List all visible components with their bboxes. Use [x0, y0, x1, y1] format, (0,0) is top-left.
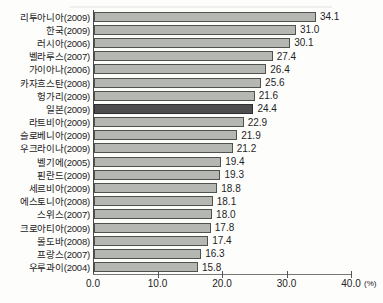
bar [94, 209, 212, 219]
country-label: 프랑스(2007) [0, 247, 93, 261]
x-axis: (%) 0.010.020.030.040.0 [93, 274, 351, 295]
bar [94, 223, 211, 233]
bar [94, 64, 266, 74]
x-axis-tick-label: 0.0 [86, 278, 100, 289]
value-label: 25.6 [265, 77, 284, 88]
bar-track: 18.0 [93, 208, 352, 221]
value-label: 21.2 [237, 143, 256, 154]
bar-row: 크로아티아(2009)17.8 [0, 221, 352, 234]
country-label: 일본(2009) [0, 102, 93, 116]
country-label: 슬로베니아(2009) [0, 128, 93, 142]
country-label: 헝가리(2009) [0, 89, 93, 103]
country-label: 카자흐스탄(2008) [0, 76, 93, 90]
value-label: 24.4 [257, 103, 276, 114]
value-label: 19.3 [224, 169, 243, 180]
country-label: 러시아(2006) [0, 36, 93, 50]
country-label: 한국(2009) [0, 23, 93, 37]
bar-row: 스위스(2007)18.0 [0, 208, 352, 221]
x-axis-tick [222, 271, 223, 278]
bar-track: 31.0 [93, 23, 352, 36]
bar-row: 몰도바(2008)17.4 [0, 234, 352, 247]
country-label: 크로아티아(2009) [0, 221, 93, 235]
bar-row: 일본(2009)24.4 [0, 102, 352, 115]
x-axis-tick [351, 271, 352, 278]
bar [94, 262, 198, 272]
bar-track: 17.4 [93, 234, 352, 247]
bar-track: 19.3 [93, 168, 352, 181]
bar-track: 17.8 [93, 221, 352, 234]
bar-row: 벨라루스(2007)27.4 [0, 50, 352, 63]
value-label: 18.8 [221, 183, 240, 194]
x-axis-tick-label: 30.0 [277, 278, 296, 289]
scan-artifact-line [70, 6, 332, 8]
value-label: 19.4 [225, 156, 244, 167]
country-label: 벨라루스(2007) [0, 49, 93, 63]
bar-rows: 리투아니아(2009)34.1한국(2009)31.0러시아(2006)30.1… [0, 10, 352, 274]
bar [94, 12, 316, 22]
bar-row: 세르비아(2009)18.8 [0, 181, 352, 194]
bar-row: 러시아(2006)30.1 [0, 36, 352, 49]
country-label: 세르비아(2009) [0, 181, 93, 195]
bar [94, 236, 208, 246]
value-label: 30.1 [294, 37, 313, 48]
bar [94, 157, 221, 167]
bar-row: 라트비아(2009)22.9 [0, 116, 352, 129]
value-label: 21.9 [241, 130, 260, 141]
bar-track: 19.4 [93, 155, 352, 168]
bar-chart-figure: 리투아니아(2009)34.1한국(2009)31.0러시아(2006)30.1… [0, 0, 383, 303]
x-axis-tick [158, 271, 159, 278]
bar-track: 26.4 [93, 63, 352, 76]
bar [94, 25, 296, 35]
bar-track: 21.2 [93, 142, 352, 155]
value-label: 34.1 [320, 11, 339, 22]
bar-row: 한국(2009)31.0 [0, 23, 352, 36]
bar-track: 24.4 [93, 102, 352, 115]
bar [94, 249, 201, 259]
value-label: 16.3 [205, 248, 224, 259]
country-label: 에스토니아(2008) [0, 194, 93, 208]
bar-row: 리투아니아(2009)34.1 [0, 10, 352, 23]
horizontal-bar-chart: 리투아니아(2009)34.1한국(2009)31.0러시아(2006)30.1… [0, 10, 352, 295]
bar-row: 가이아나(2006)26.4 [0, 63, 352, 76]
bar-track: 27.4 [93, 50, 352, 63]
country-label: 가이아나(2006) [0, 62, 93, 76]
bar-row: 핀란드(2009)19.3 [0, 168, 352, 181]
bar-track: 16.3 [93, 247, 352, 260]
bar-row: 슬로베니아(2009)21.9 [0, 129, 352, 142]
value-label: 18.1 [217, 196, 236, 207]
value-label: 26.4 [270, 64, 289, 75]
bar-track: 18.1 [93, 195, 352, 208]
country-label: 우루과이(2004) [0, 260, 93, 274]
bar [94, 117, 244, 127]
bar-highlighted [94, 104, 253, 114]
bar-track: 18.8 [93, 181, 352, 194]
bar [94, 38, 290, 48]
bar [94, 78, 261, 88]
bar [94, 183, 217, 193]
x-axis-tick-label: 10.0 [148, 278, 167, 289]
country-label: 핀란드(2009) [0, 168, 93, 182]
bar [94, 196, 213, 206]
bar-row: 헝가리(2009)21.6 [0, 89, 352, 102]
bar-track: 21.9 [93, 129, 352, 142]
bar-row: 에스토니아(2008)18.1 [0, 195, 352, 208]
value-label: 15.8 [202, 262, 221, 273]
bar [94, 170, 220, 180]
x-axis-tick-label: 20.0 [212, 278, 231, 289]
bar-track: 30.1 [93, 36, 352, 49]
bar-row: 프랑스(2007)16.3 [0, 247, 352, 260]
x-axis-tick-label: 40.0 [341, 278, 360, 289]
x-axis-tick [287, 271, 288, 278]
value-label: 31.0 [300, 24, 319, 35]
value-label: 18.0 [216, 209, 235, 220]
bar-track: 25.6 [93, 76, 352, 89]
bar [94, 91, 255, 101]
country-label: 리투아니아(2009) [0, 10, 93, 24]
bar-row: 우루과이(2004)15.8 [0, 261, 352, 274]
country-label: 몰도바(2008) [0, 234, 93, 248]
country-label: 스위스(2007) [0, 207, 93, 221]
bar-row: 카자흐스탄(2008)25.6 [0, 76, 352, 89]
bar [94, 51, 273, 61]
bar [94, 143, 233, 153]
country-label: 라트비아(2009) [0, 115, 93, 129]
